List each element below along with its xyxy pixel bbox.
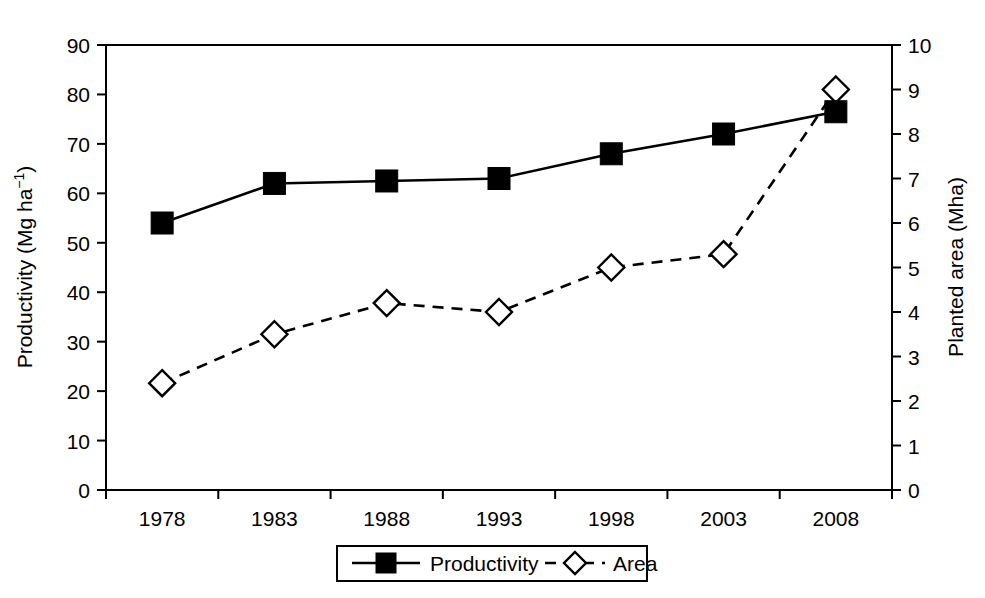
series-area [149, 77, 849, 397]
marker-area-2008 [823, 77, 849, 103]
left-tick-label-50: 50 [67, 232, 90, 255]
legend-marker-filled-square [376, 553, 396, 573]
series-productivity [151, 101, 847, 234]
x-axis-ticks: 1978198319881993199820032008 [106, 490, 892, 530]
left-tick-label-40: 40 [67, 281, 90, 304]
marker-area-1998 [598, 255, 624, 281]
right-tick-label-1: 1 [908, 435, 920, 458]
line-chart: 0102030405060708090 012345678910 1978198… [0, 0, 985, 598]
series-productivity-markers [151, 101, 847, 234]
x-tick-label-2003: 2003 [700, 507, 747, 530]
x-tick-label-1978: 1978 [139, 507, 186, 530]
left-tick-label-60: 60 [67, 182, 90, 205]
left-tick-label-10: 10 [67, 430, 90, 453]
x-tick-label-1983: 1983 [251, 507, 298, 530]
left-tick-label-20: 20 [67, 380, 90, 403]
right-tick-label-6: 6 [908, 212, 920, 235]
marker-area-1988 [374, 290, 400, 316]
chart-legend: Productivity Area [337, 546, 658, 581]
left-tick-label-70: 70 [67, 133, 90, 156]
legend-label-area: Area [613, 552, 658, 575]
x-tick-label-1988: 1988 [363, 507, 410, 530]
marker-productivity-1993 [488, 168, 510, 190]
right-tick-label-10: 10 [908, 34, 931, 57]
plot-frame [106, 45, 892, 490]
left-tick-label-90: 90 [67, 34, 90, 57]
right-tick-label-4: 4 [908, 301, 920, 324]
left-tick-label-30: 30 [67, 331, 90, 354]
right-tick-label-8: 8 [908, 123, 920, 146]
x-tick-label-1993: 1993 [476, 507, 523, 530]
right-tick-label-2: 2 [908, 390, 920, 413]
marker-area-1978 [149, 370, 175, 396]
marker-productivity-2008 [825, 101, 847, 123]
right-tick-label-0: 0 [908, 479, 920, 502]
chart-figure: 0102030405060708090 012345678910 1978198… [0, 0, 985, 598]
marker-area-1993 [486, 299, 512, 325]
legend-entry-productivity[interactable]: Productivity [352, 552, 539, 575]
x-tick-label-1998: 1998 [588, 507, 635, 530]
x-tick-label-2008: 2008 [812, 507, 859, 530]
left-axis-ticks: 0102030405060708090 [67, 34, 106, 502]
marker-productivity-1983 [263, 172, 285, 194]
left-axis-title: Productivity (Mg ha−1) [11, 166, 36, 369]
left-tick-label-80: 80 [67, 83, 90, 106]
right-axis-title: Planted area (Mha) [944, 177, 967, 357]
right-tick-label-9: 9 [908, 79, 920, 102]
right-tick-label-3: 3 [908, 346, 920, 369]
marker-productivity-1998 [600, 143, 622, 165]
right-tick-label-5: 5 [908, 257, 920, 280]
marker-productivity-1988 [376, 170, 398, 192]
left-tick-label-0: 0 [78, 479, 90, 502]
legend-label-productivity: Productivity [430, 552, 539, 575]
marker-area-1983 [261, 321, 287, 347]
series-area-markers [149, 77, 849, 397]
marker-productivity-1978 [151, 212, 173, 234]
marker-productivity-2003 [713, 123, 735, 145]
marker-area-2003 [711, 241, 737, 267]
right-axis-ticks: 012345678910 [892, 34, 931, 502]
right-tick-label-7: 7 [908, 168, 920, 191]
